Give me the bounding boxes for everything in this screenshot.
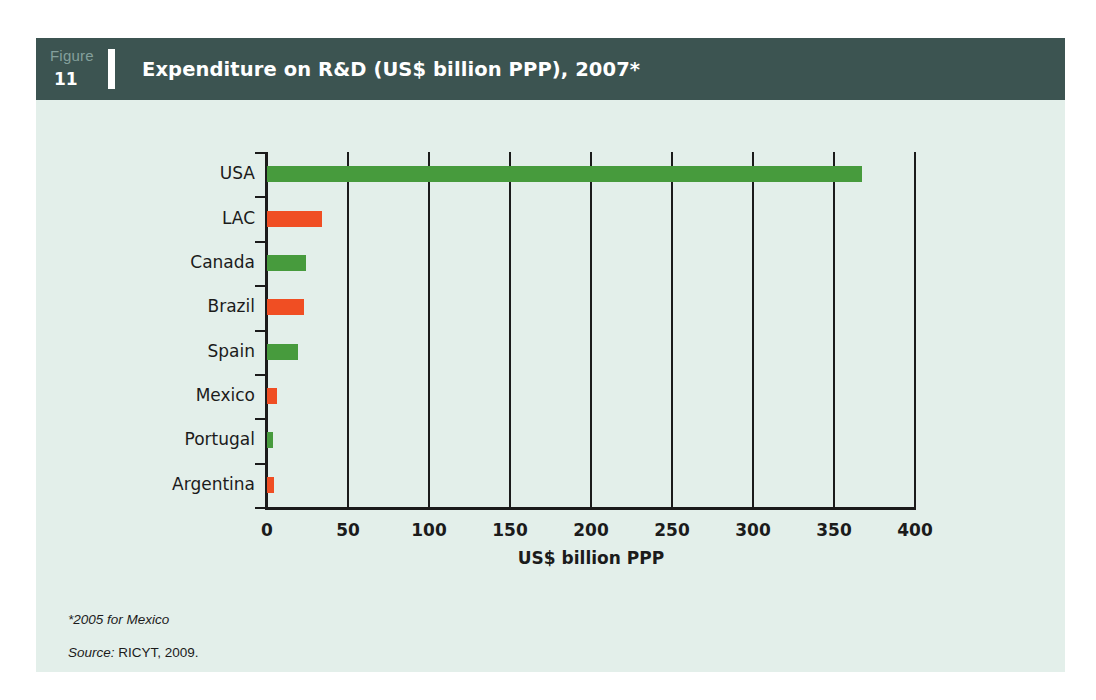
y-axis-tick (255, 330, 266, 332)
figure-number-block: Figure 11 (36, 38, 108, 100)
figure-label-word: Figure (50, 47, 94, 64)
x-tick-label-200: 200 (573, 520, 609, 540)
bar-brazil (267, 299, 304, 315)
footnote-source: Source: RICYT, 2009. (68, 645, 199, 660)
y-label-portugal: Portugal (185, 429, 255, 449)
y-axis-tick (255, 418, 266, 420)
x-tick-label-0: 0 (261, 520, 273, 540)
x-tick-label-300: 300 (735, 520, 771, 540)
gridline-100 (428, 152, 430, 507)
x-axis-tick-labels: 050100150200250300350400 (267, 508, 915, 542)
y-label-brazil: Brazil (208, 296, 255, 316)
bar-portugal (267, 432, 273, 448)
gridline-300 (752, 152, 754, 507)
figure-header-bar: Figure 11 Expenditure on R&D (US$ billio… (36, 38, 1065, 100)
bar-argentina (267, 477, 274, 493)
y-label-mexico: Mexico (196, 385, 255, 405)
bar-canada (267, 255, 306, 271)
y-axis-tick (255, 152, 266, 154)
x-tick-label-100: 100 (411, 520, 447, 540)
y-axis-tick (255, 241, 266, 243)
x-tick-label-400: 400 (897, 520, 933, 540)
y-axis-tick (255, 374, 266, 376)
bar-lac (267, 211, 322, 227)
figure-panel: Figure 11 Expenditure on R&D (US$ billio… (36, 38, 1065, 672)
gridline-400 (914, 152, 916, 507)
y-label-canada: Canada (190, 252, 255, 272)
y-axis-category-labels: USALACCanadaBrazilSpainMexicoPortugalArg… (36, 152, 255, 507)
gridline-200 (590, 152, 592, 507)
x-axis-title: US$ billion PPP (267, 548, 915, 568)
bar-mexico (267, 388, 277, 404)
gridline-350 (833, 152, 835, 507)
gridline-250 (671, 152, 673, 507)
gridline-150 (509, 152, 511, 507)
x-tick-label-250: 250 (654, 520, 690, 540)
source-value: RICYT, 2009. (118, 645, 198, 660)
plot-area (267, 152, 915, 507)
x-tick-label-350: 350 (816, 520, 852, 540)
y-label-argentina: Argentina (172, 474, 255, 494)
figure-title: Expenditure on R&D (US$ billion PPP), 20… (142, 58, 640, 81)
header-divider-rule (108, 49, 115, 89)
bar-spain (267, 344, 298, 360)
footnote-asterisk: *2005 for Mexico (68, 612, 169, 627)
y-label-spain: Spain (208, 341, 256, 361)
y-axis-tick (255, 463, 266, 465)
y-label-lac: LAC (222, 208, 255, 228)
y-axis-tick (255, 507, 266, 509)
bar-usa (267, 166, 862, 182)
y-label-usa: USA (220, 163, 255, 183)
y-axis-tick (255, 285, 266, 287)
figure-number: 11 (54, 69, 78, 89)
gridline-50 (347, 152, 349, 507)
y-axis-tick (255, 196, 266, 198)
x-tick-label-150: 150 (492, 520, 528, 540)
x-tick-label-50: 50 (336, 520, 360, 540)
chart-area: USALACCanadaBrazilSpainMexicoPortugalArg… (36, 100, 1065, 672)
source-label: Source: (68, 645, 115, 660)
